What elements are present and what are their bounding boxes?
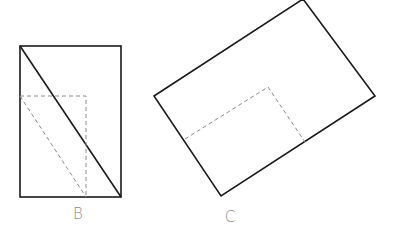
figure-b-dashed-rectangle [20,96,86,197]
figure-c-label: C [225,208,235,226]
figure-b-dashed-diagonal [20,96,86,197]
figure-b-label: B [73,205,83,223]
figure-b: B [20,46,121,223]
figure-c: C [154,0,375,226]
diagram-canvas: B C [0,0,397,240]
figure-b-diagonal [20,46,121,197]
figure-c-outer-rectangle [154,0,375,196]
figure-c-dashed-corner [185,87,305,142]
